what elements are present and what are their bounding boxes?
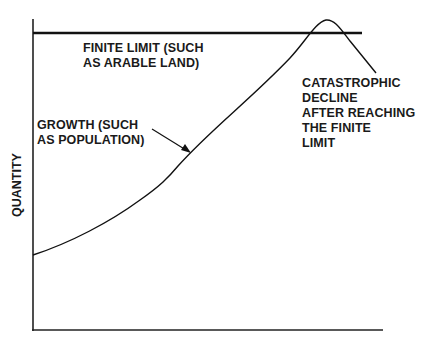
decline-label-line1: CATASTROPHIC bbox=[302, 76, 415, 91]
decline-label-line3: AFTER REACHING bbox=[302, 106, 415, 121]
arrow-head-icon bbox=[181, 144, 191, 153]
growth-label: GROWTH (SUCH AS POPULATION) bbox=[37, 118, 144, 148]
growth-label-line1: GROWTH (SUCH bbox=[37, 118, 144, 133]
growth-label-line2: AS POPULATION) bbox=[37, 133, 144, 148]
decline-label-line2: DECLINE bbox=[302, 91, 415, 106]
decline-label-line4: THE FINITE bbox=[302, 121, 415, 136]
growth-arrow bbox=[152, 129, 186, 150]
finite-limit-label-line2: AS ARABLE LAND) bbox=[83, 56, 204, 71]
decline-label: CATASTROPHIC DECLINE AFTER REACHING THE … bbox=[302, 76, 415, 151]
decline-label-line5: LIMIT bbox=[302, 136, 415, 151]
y-axis-label: QUANTITY bbox=[10, 150, 24, 220]
diagram-canvas bbox=[0, 0, 441, 344]
finite-limit-label-line1: FINITE LIMIT (SUCH bbox=[83, 41, 204, 56]
finite-limit-label: FINITE LIMIT (SUCH AS ARABLE LAND) bbox=[83, 41, 204, 71]
